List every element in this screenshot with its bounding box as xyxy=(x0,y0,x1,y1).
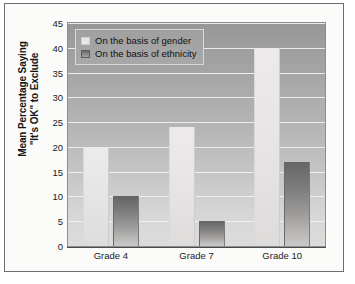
chart-figure: Mean Percentage Saying "It's OK" to Excl… xyxy=(4,3,344,272)
y-axis-tick-labels: 051015202530354045 xyxy=(39,16,63,243)
y-tick-label: 40 xyxy=(39,42,63,53)
y-tick-label: 0 xyxy=(39,241,63,252)
y-tick-label: 45 xyxy=(39,18,63,29)
bar-gender xyxy=(254,48,280,246)
y-axis-title-line-1: Mean Percentage Saying xyxy=(17,41,29,157)
bar-ethnicity xyxy=(113,196,139,246)
legend-swatch-ethnicity-icon xyxy=(81,50,90,58)
x-tick-label: Grade 10 xyxy=(262,250,302,261)
legend-label-ethnicity: On the basis of ethnicity xyxy=(95,48,196,59)
y-tick-label: 20 xyxy=(39,141,63,152)
legend-label-gender: On the basis of gender xyxy=(95,35,191,46)
legend-swatch-gender-icon xyxy=(81,37,90,45)
y-tick-label: 15 xyxy=(39,166,63,177)
y-tick-label: 25 xyxy=(39,117,63,128)
x-axis-line xyxy=(67,247,326,248)
y-tick-label: 10 xyxy=(39,191,63,202)
bar-gender xyxy=(83,147,109,246)
plot-area: On the basis of gender On the basis of e… xyxy=(67,22,326,247)
bar-gender xyxy=(169,127,195,246)
x-tick-label: Grade 4 xyxy=(94,250,128,261)
y-tick-label: 35 xyxy=(39,67,63,78)
x-axis-tick-labels: Grade 4Grade 7Grade 10 xyxy=(67,250,326,266)
legend-item-gender: On the basis of gender xyxy=(81,34,196,47)
legend-item-ethnicity: On the basis of ethnicity xyxy=(81,47,196,60)
bar-ethnicity xyxy=(284,162,310,246)
y-tick-label: 5 xyxy=(39,216,63,227)
chart-legend: On the basis of gender On the basis of e… xyxy=(75,29,204,65)
x-tick-label: Grade 7 xyxy=(179,250,213,261)
y-tick-label: 30 xyxy=(39,92,63,103)
bar-ethnicity xyxy=(199,221,225,246)
